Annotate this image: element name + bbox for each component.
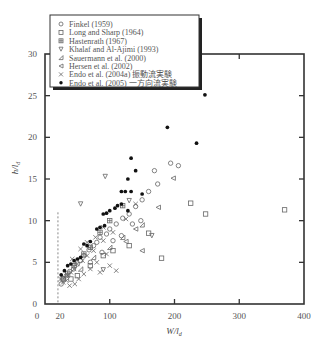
data-point [168, 161, 172, 165]
data-point [140, 192, 144, 196]
data-point [127, 243, 131, 247]
data-point [82, 242, 86, 246]
data-point [126, 209, 130, 213]
data-point [98, 225, 102, 229]
x-axis-title: W/ld [166, 326, 183, 337]
data-point [134, 169, 138, 173]
data-point [85, 253, 89, 257]
x-tick-label: 20 [55, 311, 65, 321]
data-point [133, 227, 137, 231]
data-point [101, 268, 105, 272]
legend: Finkel (1959)Long and Sharp (1964)Hasten… [50, 15, 202, 90]
data-point [171, 176, 175, 180]
x-tick-label: 100 [103, 311, 117, 321]
data-point [114, 222, 118, 226]
data-point [85, 244, 89, 248]
data-point [101, 212, 105, 216]
data-point [98, 270, 102, 274]
data-point [150, 233, 154, 237]
data-point [108, 245, 112, 249]
data-point [104, 232, 108, 236]
x-tick-label: 300 [233, 311, 247, 321]
data-point [126, 177, 130, 181]
data-point [95, 260, 99, 264]
data-point [75, 262, 79, 266]
data-point [124, 239, 128, 243]
series-triangle-down [78, 174, 154, 272]
y-tick-label: 30 [28, 49, 38, 59]
data-point [188, 201, 192, 205]
data-point [129, 190, 133, 194]
data-point [63, 269, 67, 273]
legend-label: Endo et al. (2005) 一方向流実験 [69, 78, 177, 88]
series-circle [59, 161, 181, 286]
legend-marker-filled-circle [59, 81, 62, 84]
data-point [282, 208, 286, 212]
data-point [78, 247, 82, 251]
data-point [91, 255, 95, 259]
data-point [121, 235, 125, 239]
data-point [146, 189, 150, 193]
data-point [203, 212, 207, 216]
y-tick-label: 15 [28, 174, 38, 184]
data-point [114, 268, 118, 272]
data-point [78, 267, 82, 271]
data-point [127, 198, 131, 202]
x-tick-label: 0 [35, 311, 40, 321]
data-point [155, 182, 159, 186]
y-tick-label: 10 [28, 216, 38, 226]
data-point [103, 224, 107, 228]
data-point [69, 262, 73, 266]
data-point [129, 156, 133, 160]
data-point [111, 248, 115, 252]
data-point [59, 273, 63, 277]
data-point [67, 283, 71, 287]
y-axis-title: h/ld [10, 161, 21, 175]
y-tick-label: 0 [33, 299, 38, 309]
data-point [76, 277, 80, 281]
data-points [58, 93, 286, 288]
series-x [58, 202, 138, 288]
data-point [111, 230, 115, 234]
data-point [140, 248, 144, 252]
y-tick-label: 20 [28, 132, 38, 142]
series-filled-circle [59, 93, 206, 277]
data-point [108, 218, 112, 222]
data-point [93, 235, 97, 239]
data-point [120, 202, 124, 206]
data-point [104, 252, 108, 256]
data-point [130, 222, 134, 226]
data-point [88, 260, 92, 264]
data-point [91, 248, 95, 252]
x-tick-label: 200 [168, 311, 182, 321]
data-point [100, 250, 104, 254]
data-point [111, 238, 115, 242]
data-point [166, 125, 170, 129]
data-point [195, 141, 199, 145]
x-tick-label: 400 [297, 311, 311, 321]
data-point [95, 227, 99, 231]
data-point [82, 272, 86, 276]
data-point [152, 168, 156, 172]
data-point [108, 209, 112, 213]
data-point [73, 282, 77, 286]
data-point [139, 218, 143, 222]
data-point [156, 205, 160, 209]
data-point [133, 204, 137, 208]
data-point [108, 263, 112, 267]
data-point [79, 255, 83, 259]
plot-frame [45, 54, 304, 304]
data-point [140, 223, 144, 227]
data-point [105, 211, 109, 215]
data-point [88, 267, 92, 271]
data-point [159, 256, 163, 260]
data-point [66, 264, 70, 268]
data-point [98, 230, 102, 234]
data-point [116, 204, 120, 208]
y-tick-label: 5 [33, 257, 38, 267]
scatter-chart: 010020030040020 051015202530 W/ld h/ld F… [0, 0, 326, 354]
data-point [76, 257, 80, 261]
data-point [78, 202, 82, 206]
data-point [133, 202, 137, 206]
data-point [140, 198, 144, 202]
